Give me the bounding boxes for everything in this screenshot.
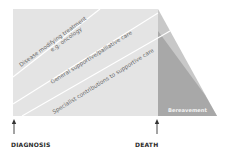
care-continuum-diagram: Disease modifying treatment e.g. oncolog… <box>0 0 229 159</box>
bereavement-area <box>158 31 217 116</box>
diagnosis-arrow-icon <box>12 119 16 134</box>
death-label: DEATH <box>135 141 158 148</box>
death-arrow-icon <box>155 119 159 134</box>
bereavement-label: Bereavement <box>168 107 208 113</box>
diagnosis-label: DIAGNOSIS <box>11 141 51 148</box>
